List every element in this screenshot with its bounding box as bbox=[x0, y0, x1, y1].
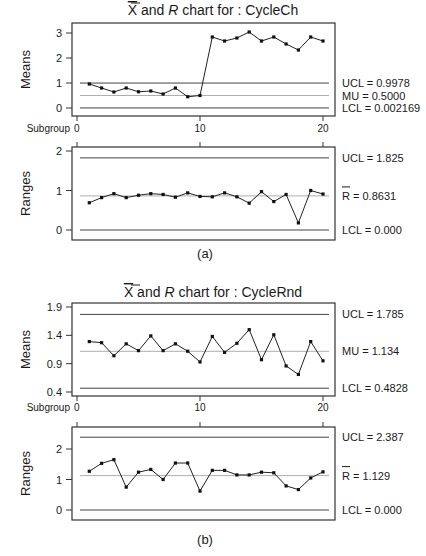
chart-title: X and R chart for : CycleCh bbox=[128, 2, 298, 18]
plot-frame bbox=[72, 303, 335, 396]
data-point bbox=[211, 35, 214, 38]
data-point bbox=[285, 484, 288, 487]
x-tick-label: 20 bbox=[317, 123, 329, 134]
data-point bbox=[309, 35, 312, 38]
data-point bbox=[272, 200, 275, 203]
data-point bbox=[112, 458, 115, 461]
data-point bbox=[186, 350, 189, 353]
data-point bbox=[100, 462, 103, 465]
data-point bbox=[137, 349, 140, 352]
title-r: R bbox=[164, 284, 174, 300]
title-and: and bbox=[137, 2, 168, 18]
ucl-limit-label: UCL = 1.785 bbox=[342, 308, 404, 320]
y-tick-label: 0 bbox=[56, 504, 62, 516]
x-axis-label: Subgroup bbox=[27, 123, 71, 134]
x-tick-label: 0 bbox=[74, 123, 80, 134]
y-tick-label: 0.4 bbox=[47, 386, 62, 398]
data-point bbox=[248, 473, 251, 476]
center-limit-label: MU = 0.5000 bbox=[342, 90, 405, 102]
data-line bbox=[89, 32, 323, 97]
data-point bbox=[174, 461, 177, 464]
data-point bbox=[211, 195, 214, 198]
data-line bbox=[89, 191, 323, 223]
data-point bbox=[260, 190, 263, 193]
figure-a: X and R chart for : CycleCh3210MeansUCL … bbox=[18, 2, 420, 261]
title-and: and bbox=[133, 284, 164, 300]
data-point bbox=[223, 39, 226, 42]
plot-frame bbox=[72, 427, 335, 520]
data-point bbox=[297, 373, 300, 376]
data-point bbox=[88, 340, 91, 343]
y-axis-label: Ranges bbox=[18, 451, 33, 496]
data-point bbox=[248, 328, 251, 331]
data-point bbox=[100, 341, 103, 344]
lcl-limit-label: LCL = 0.000 bbox=[342, 504, 402, 516]
lcl-limit-label: LCL = 0.4828 bbox=[342, 382, 408, 394]
center-limit-label: R = 0.8631 bbox=[342, 190, 396, 202]
y-tick-label: 1.9 bbox=[47, 301, 62, 313]
y-tick-label: 1 bbox=[56, 77, 62, 89]
data-point bbox=[162, 349, 165, 352]
data-point bbox=[309, 476, 312, 479]
data-point bbox=[137, 471, 140, 474]
subgroup-axis: 01020Subgroup bbox=[27, 395, 329, 427]
data-point bbox=[248, 202, 251, 205]
data-point bbox=[125, 196, 128, 199]
data-point bbox=[235, 473, 238, 476]
data-point bbox=[198, 489, 201, 492]
data-point bbox=[162, 478, 165, 481]
data-point bbox=[211, 469, 214, 472]
data-point bbox=[272, 333, 275, 336]
data-point bbox=[260, 358, 263, 361]
y-tick-label: 0 bbox=[56, 224, 62, 236]
data-point bbox=[285, 193, 288, 196]
ucl-limit-label: UCL = 1.825 bbox=[342, 152, 404, 164]
data-point bbox=[260, 471, 263, 474]
data-point bbox=[321, 39, 324, 42]
data-point bbox=[88, 201, 91, 204]
data-point bbox=[100, 196, 103, 199]
y-tick-label: 1 bbox=[56, 185, 62, 197]
data-point bbox=[88, 470, 91, 473]
data-point bbox=[297, 48, 300, 51]
plot-frame bbox=[72, 147, 335, 240]
chart-title: X and R chart for : CycleRnd bbox=[124, 284, 302, 300]
data-line bbox=[89, 330, 323, 375]
figure-b: X and R chart for : CycleRnd1.91.40.90.4… bbox=[18, 284, 408, 547]
data-point bbox=[149, 89, 152, 92]
means-panel: 3210MeansUCL = 0.9978MU = 0.5000LCL = 0.… bbox=[18, 23, 420, 116]
data-point bbox=[223, 191, 226, 194]
data-point bbox=[174, 86, 177, 89]
x-axis-label: Subgroup bbox=[27, 402, 71, 413]
data-point bbox=[321, 192, 324, 195]
data-point bbox=[162, 193, 165, 196]
data-point bbox=[100, 86, 103, 89]
control-charts-figure: X and R chart for : CycleCh3210MeansUCL … bbox=[0, 0, 426, 556]
ranges-panel: 210RangesUCL = 2.387R = 1.129LCL = 0.000 bbox=[18, 427, 404, 520]
y-axis-label: Means bbox=[18, 49, 33, 89]
x-tick-label: 10 bbox=[194, 123, 206, 134]
subgroup-axis: 01020Subgroup bbox=[27, 116, 329, 147]
r-bar-value: = 1.129 bbox=[350, 470, 390, 482]
data-point bbox=[112, 192, 115, 195]
data-point bbox=[174, 342, 177, 345]
data-point bbox=[186, 95, 189, 98]
means-panel: 1.91.40.90.4MeansUCL = 1.785MU = 1.134LC… bbox=[18, 301, 408, 398]
y-axis-label: Ranges bbox=[18, 171, 33, 216]
center-limit-label: R = 1.129 bbox=[342, 470, 390, 482]
y-tick-label: 3 bbox=[56, 27, 62, 39]
ucl-limit-label: UCL = 2.387 bbox=[342, 431, 404, 443]
title-r: R bbox=[168, 2, 178, 18]
figure-caption: (a) bbox=[197, 246, 213, 261]
y-tick-label: 1 bbox=[56, 474, 62, 486]
data-point bbox=[223, 351, 226, 354]
data-point bbox=[321, 359, 324, 362]
lcl-limit-label: LCL = 0.000 bbox=[342, 224, 402, 236]
data-point bbox=[88, 82, 91, 85]
data-point bbox=[235, 342, 238, 345]
r-bar-symbol: R bbox=[342, 190, 350, 202]
x-tick-label: 0 bbox=[74, 402, 80, 413]
data-point bbox=[125, 486, 128, 489]
data-point bbox=[297, 488, 300, 491]
data-point bbox=[260, 39, 263, 42]
